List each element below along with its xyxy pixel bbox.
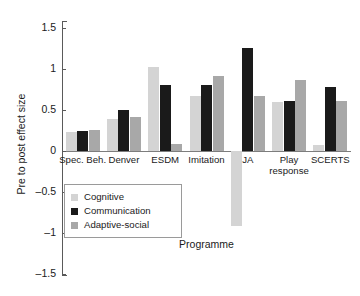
bar: [325, 87, 336, 151]
bar: [77, 131, 88, 151]
legend-label: Adaptive-social: [84, 220, 149, 230]
y-tick-mark: [62, 151, 66, 152]
bar: [295, 80, 306, 151]
bar: [284, 101, 295, 151]
bar: [130, 117, 141, 151]
y-tick-label: –1.5: [16, 268, 56, 278]
bar: [190, 96, 201, 151]
legend-item: Communication: [71, 204, 175, 218]
bar: [254, 96, 265, 151]
y-axis-bottom-cap: [62, 275, 67, 276]
legend-label: Cognitive: [84, 192, 124, 202]
zero-baseline: [62, 151, 351, 152]
legend-rows: CognitiveCommunicationAdaptive-social: [71, 190, 175, 232]
bar: [118, 110, 129, 151]
y-tick-mark: [62, 28, 66, 29]
bar: [66, 132, 77, 151]
bar: [272, 102, 283, 151]
y-tick-mark: [62, 110, 66, 111]
y-axis-top-cap: [62, 21, 67, 22]
bar: [148, 67, 159, 151]
bar-chart-figure: 1.510.50–0.5–1–1.5 Pre to post effect si…: [0, 0, 360, 296]
y-tick-mark: [62, 274, 66, 275]
y-tick-mark: [62, 69, 66, 70]
bar: [213, 76, 224, 151]
legend-item: Cognitive: [71, 190, 175, 204]
bar: [336, 101, 347, 151]
y-axis-label: Pre to post effect size: [15, 49, 27, 239]
bar: [171, 144, 182, 151]
legend-swatch-icon: [71, 208, 78, 215]
bar: [201, 85, 212, 151]
legend-item: Adaptive-social: [71, 218, 175, 232]
chart-legend: CognitiveCommunicationAdaptive-social: [64, 184, 182, 238]
category-label: SCERTS: [290, 154, 360, 165]
x-axis-label: Programme: [62, 238, 351, 250]
legend-swatch-icon: [71, 194, 78, 201]
bar: [89, 130, 100, 151]
legend-swatch-icon: [71, 222, 78, 229]
bar: [242, 48, 253, 151]
y-tick-label: 1.5: [16, 22, 56, 32]
bar: [313, 145, 324, 151]
bar: [107, 119, 118, 151]
bar: [160, 85, 171, 151]
legend-label: Communication: [84, 206, 151, 216]
